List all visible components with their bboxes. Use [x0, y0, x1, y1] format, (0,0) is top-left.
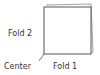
paper-square	[44, 7, 91, 54]
fold-1-label: Fold 1	[53, 63, 77, 71]
fold-2-label: Fold 2	[8, 30, 32, 38]
center-pointer-line	[39, 54, 44, 61]
center-label: Center	[4, 63, 31, 71]
